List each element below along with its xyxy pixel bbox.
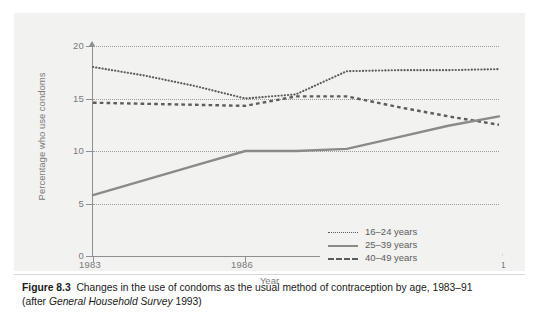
chart-legend: 16–24 years 25–39 years 40–49 years: [320, 221, 502, 271]
y-tick-label-20: 20: [62, 40, 84, 51]
caption-source-suffix: 1993): [173, 296, 202, 307]
figure-caption: Figure 8.3 Changes in the use of condoms…: [22, 281, 527, 308]
legend-label-16-24: 16–24 years: [365, 226, 417, 237]
x-tick-label-1983: 1983: [79, 259, 101, 270]
legend-label-40-49: 40–49 years: [365, 252, 417, 263]
figure-caption-text: Changes in the use of condoms as the usu…: [76, 282, 472, 293]
caption-divider: [14, 274, 525, 275]
x-tick-label-1986: 1986: [231, 259, 253, 270]
y-tick-10: [86, 151, 93, 152]
legend-item-25-39: 25–39 years: [328, 239, 496, 251]
series-line-25-39: [93, 116, 499, 195]
figure-number: Figure 8.3: [22, 282, 71, 293]
series-line-40-49: [93, 96, 499, 124]
y-tick-5: [86, 204, 93, 205]
y-tick-0: [86, 256, 93, 257]
legend-label-25-39: 25–39 years: [365, 239, 417, 250]
caption-source-prefix: (after: [22, 296, 49, 307]
figure-8-3: 20 15 10 5 0 1983 1986 1988 1991 Year Pe…: [0, 0, 541, 316]
chart-panel: 20 15 10 5 0 1983 1986 1988 1991 Year Pe…: [14, 13, 525, 271]
legend-swatch-dashed-icon: [328, 253, 358, 263]
figure-caption-source: (after General Household Survey 1993): [22, 295, 527, 309]
series-line-16-24: [93, 67, 499, 99]
y-tick-label-5: 5: [62, 198, 84, 209]
legend-item-40-49: 40–49 years: [328, 252, 496, 264]
legend-item-16-24: 16–24 years: [328, 226, 496, 238]
y-tick-20: [86, 46, 93, 47]
caption-source-title: General Household Survey: [49, 296, 173, 307]
y-tick-label-15: 15: [62, 93, 84, 104]
y-tick-15: [86, 99, 93, 100]
legend-swatch-solid-icon: [328, 240, 358, 250]
legend-swatch-dotted-icon: [328, 227, 358, 237]
y-tick-label-10: 10: [62, 145, 84, 156]
y-axis-title: Percentage who use condoms: [36, 42, 47, 232]
